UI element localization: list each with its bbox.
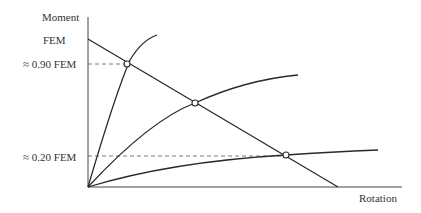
stiff-connection-curve xyxy=(88,35,157,187)
semi-rigid-connection-curve xyxy=(88,75,298,187)
flexible-connection-curve xyxy=(88,150,378,187)
intersection-marker xyxy=(283,152,289,158)
intersection-marker xyxy=(124,61,130,67)
intersection-marker xyxy=(192,100,198,106)
moment-rotation-diagram xyxy=(0,0,421,213)
